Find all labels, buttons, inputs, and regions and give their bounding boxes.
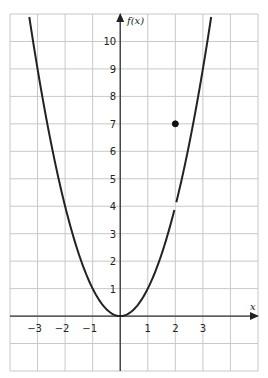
y-axis-label: f(x) — [126, 15, 144, 26]
y-tick-label: 2 — [110, 256, 116, 267]
x-tick-label: −2 — [55, 323, 70, 334]
x-tick-label: −1 — [82, 323, 97, 334]
y-tick-labels: 12345678910 — [103, 36, 116, 294]
y-tick-label: 10 — [103, 36, 116, 47]
x-tick-label: 1 — [145, 323, 151, 334]
function-graph: −3−2−1123 12345678910 f(x) x — [0, 0, 268, 378]
axes — [10, 13, 259, 371]
x-tick-label: 2 — [172, 323, 178, 334]
y-tick-label: 9 — [110, 64, 116, 75]
y-tick-label: 7 — [110, 119, 116, 130]
curve-segment-right — [176, 17, 211, 202]
point-marker — [172, 121, 178, 127]
y-tick-label: 5 — [110, 174, 116, 185]
y-tick-label: 3 — [110, 229, 116, 240]
x-tick-label: −3 — [27, 323, 42, 334]
x-tick-label: 3 — [200, 323, 206, 334]
x-axis-label: x — [250, 301, 256, 312]
y-tick-label: 4 — [110, 201, 116, 212]
curve-segment-left — [29, 17, 174, 316]
isolated-point — [172, 121, 178, 127]
y-tick-label: 6 — [110, 146, 116, 157]
y-tick-label: 8 — [110, 91, 116, 102]
x-tick-labels: −3−2−1123 — [27, 323, 206, 334]
grid — [10, 14, 258, 371]
y-tick-label: 1 — [110, 284, 116, 295]
